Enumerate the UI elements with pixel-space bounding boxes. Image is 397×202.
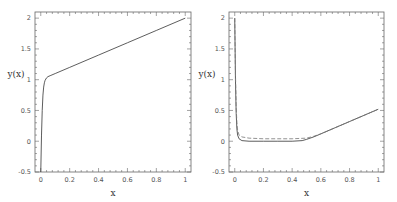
y-tick-label: 0.5 [21,107,31,115]
series-solid [235,18,379,141]
y-tick-label: 2 [27,14,31,22]
y-tick-label: 1.5 [21,45,31,53]
chart-panel-2: 00.20.40.60.81-0.500.511.52xy(x) [197,12,384,198]
y-tick-label: 0 [27,138,31,146]
y-tick-label: 0 [221,138,225,146]
y-tick-label: 1 [27,76,31,84]
y-tick-label: -0.5 [212,168,225,176]
x-tick-label: 1 [376,176,380,184]
x-tick-label: 0.2 [64,176,74,184]
x-tick-label: 0.6 [316,176,326,184]
series-dashed [235,18,379,139]
x-axis-label: x [304,188,309,198]
x-tick-label: 0 [233,176,237,184]
x-tick-label: 0.6 [122,176,132,184]
y-tick-label: 1 [221,76,225,84]
y-tick-label: 0.5 [215,107,225,115]
x-tick-label: 0.8 [344,176,354,184]
x-tick-label: 0.2 [258,176,268,184]
y-tick-label: 1.5 [215,45,225,53]
x-tick-label: 0.4 [93,176,103,184]
y-tick-label: -0.5 [18,168,31,176]
plot-frame [35,12,191,172]
y-axis-label: y(x) [6,69,24,79]
plot-frame [229,12,384,172]
x-tick-label: 0 [39,176,43,184]
chart-figure: 00.20.40.60.81-0.500.511.52xy(x)00.20.40… [0,0,397,202]
series-solution [41,18,185,172]
chart-panel-1: 00.20.40.60.81-0.500.511.52xy(x) [6,12,191,198]
y-axis-label: y(x) [197,69,215,79]
x-tick-label: 0.4 [287,176,297,184]
x-tick-label: 0.8 [151,176,161,184]
x-axis-label: x [110,188,115,198]
y-tick-label: 2 [221,14,225,22]
x-tick-label: 1 [183,176,187,184]
